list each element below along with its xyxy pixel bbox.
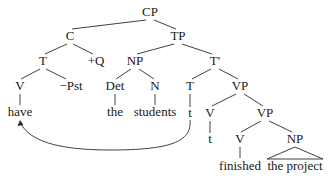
- node-q: +Q: [88, 53, 105, 68]
- node-vp2: VP: [257, 105, 274, 120]
- word-have: have: [8, 104, 33, 119]
- word-finished: finished: [219, 158, 261, 173]
- node-v2: V: [235, 131, 245, 146]
- node-t-bar: T': [210, 53, 220, 68]
- node-c: C: [66, 28, 75, 43]
- node-np-subject: NP: [127, 53, 144, 68]
- word-students: students: [134, 104, 177, 119]
- node-vp1: VP: [232, 78, 249, 93]
- node-c-v: V: [15, 78, 25, 93]
- node-v1: V: [205, 105, 215, 120]
- tree-labels: CP C TP T +Q NP T' V −Pst Det N T VP hav…: [8, 4, 323, 173]
- node-np-object: NP: [287, 131, 304, 146]
- word-the-project: the project: [267, 158, 323, 173]
- movement-arrow: [18, 120, 191, 150]
- node-n: N: [150, 78, 160, 93]
- trace-t: t: [188, 105, 192, 120]
- arrowhead-icon: [18, 120, 24, 126]
- syntax-tree-diagram: CP C TP T +Q NP T' V −Pst Det N T VP hav…: [0, 0, 332, 179]
- word-the: the: [107, 104, 123, 119]
- node-c-t: T: [39, 53, 47, 68]
- trace-v: t: [208, 131, 212, 146]
- node-t-head: T: [186, 78, 194, 93]
- node-tp: TP: [170, 28, 185, 43]
- node-det: Det: [106, 78, 125, 93]
- node-cp: CP: [142, 4, 158, 19]
- node-pst: −Pst: [59, 78, 83, 93]
